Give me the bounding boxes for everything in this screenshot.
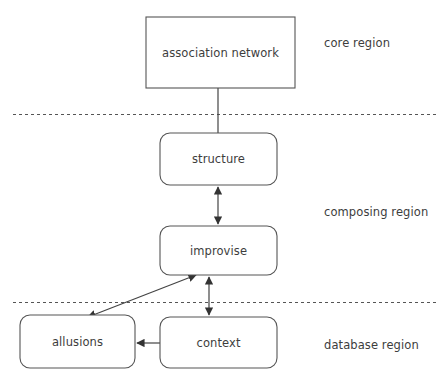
node-shape-improvise[interactable] (160, 226, 277, 275)
region-label-database: database region (324, 338, 419, 352)
node-shape-allusions[interactable] (20, 315, 135, 368)
node-shape-context[interactable] (160, 317, 277, 368)
node-shape-structure[interactable] (160, 133, 277, 185)
region-label-core: core region (324, 36, 390, 50)
node-shape-association-network[interactable] (146, 17, 295, 88)
connector-improvise-allusions (88, 275, 196, 317)
diagram-graphics (0, 0, 438, 386)
diagram-canvas: association network structure improvise … (0, 0, 438, 386)
region-label-composing: composing region (324, 205, 428, 219)
